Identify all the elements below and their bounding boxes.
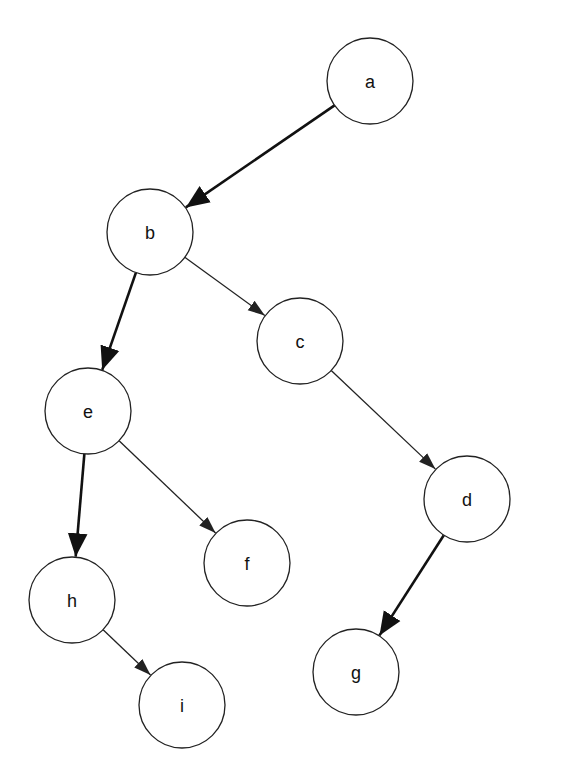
node-b: b (107, 189, 193, 275)
node-label: a (365, 72, 376, 92)
edge-e-to-f (119, 441, 215, 533)
edge-h-to-i (103, 630, 150, 675)
node-d: d (424, 456, 510, 542)
node-e: e (45, 368, 131, 454)
node-a: a (327, 38, 413, 124)
node-label: g (351, 663, 361, 683)
node-label: e (83, 402, 93, 422)
node-i: i (139, 662, 225, 748)
edge-b-to-e (102, 273, 136, 370)
nodes-group: abcedfhgi (29, 38, 510, 748)
node-f: f (204, 520, 290, 606)
node-label: b (145, 223, 155, 243)
tree-diagram: abcedfhgi (0, 0, 561, 766)
node-label: d (462, 490, 472, 510)
node-g: g (313, 629, 399, 715)
edge-c-to-d (331, 371, 435, 470)
node-label: h (67, 591, 77, 611)
node-label: i (180, 696, 184, 716)
node-h: h (29, 557, 115, 643)
edge-a-to-b (186, 105, 335, 207)
edge-b-to-c (185, 257, 265, 315)
node-c: c (257, 298, 343, 384)
edge-d-to-g (379, 535, 443, 635)
node-label: c (296, 332, 305, 352)
edge-e-to-h (76, 454, 85, 557)
